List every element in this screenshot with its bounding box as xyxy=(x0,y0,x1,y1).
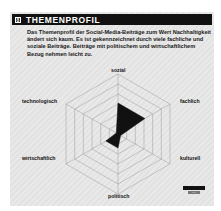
axis-label-sozial: sozial xyxy=(111,67,125,73)
legend-swatch xyxy=(183,186,205,190)
axis-label-wirtschaftlich: wirtschaftlich xyxy=(22,155,55,161)
radar-chart xyxy=(0,0,221,211)
data-polygon xyxy=(106,103,145,148)
chart-legend: 2016 xyxy=(183,186,205,194)
axis-label-politisch: politisch xyxy=(108,193,129,199)
legend-label: 2016 xyxy=(188,191,200,194)
axis-label-kulturell: kulturell xyxy=(180,155,200,161)
axis-label-fachlich: fachlich xyxy=(180,98,200,104)
axis-label-technologisch: technologisch xyxy=(22,98,57,104)
